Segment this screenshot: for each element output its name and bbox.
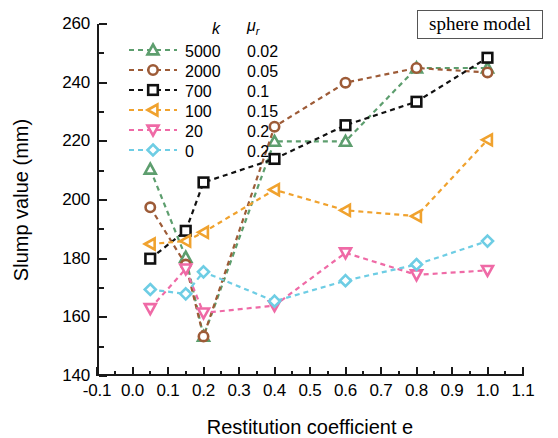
data-point-marker [482, 236, 493, 247]
data-point-marker [483, 68, 492, 77]
data-point-marker [145, 239, 155, 250]
legend-mu-value: 0.2 [247, 122, 278, 142]
x-tick-label: 0.9 [440, 381, 463, 401]
data-point-marker [145, 284, 156, 295]
x-tick-label: 1.0 [476, 381, 499, 401]
legend-symbol [127, 102, 179, 122]
y-tick-label: 180 [62, 249, 90, 269]
legend-header-mu-subscript: r [256, 25, 260, 37]
legend-k-value: 2000 [179, 62, 247, 82]
legend-k-value: 0 [179, 142, 247, 162]
legend-symbol [127, 82, 179, 102]
data-point-marker [198, 227, 208, 238]
legend-mu-value: 0.02 [247, 42, 278, 62]
data-point-marker [145, 164, 156, 174]
legend-header-spacer [127, 18, 179, 42]
legend-item: 1000.15 [127, 102, 278, 122]
plot-area: 140160180200220240260 -0.10.00.10.20.30.… [97, 24, 523, 376]
data-point-marker [411, 270, 422, 280]
legend-item: 50000.02 [127, 42, 278, 62]
x-axis-title: Restitution coefficient e [207, 416, 413, 438]
legend-k-value: 5000 [179, 42, 247, 62]
data-point-marker [412, 97, 422, 107]
x-tick-label: -0.1 [83, 381, 112, 401]
legend-header-k: k [179, 18, 247, 42]
legend-k-value: 100 [179, 102, 247, 122]
data-point-marker [482, 266, 493, 276]
data-point-marker [199, 332, 208, 341]
legend-symbol [127, 42, 179, 62]
x-tick-label: 0.6 [334, 381, 357, 401]
data-point-marker [341, 120, 351, 130]
x-tick-label: 1.1 [511, 381, 534, 401]
data-point-marker [180, 288, 191, 299]
y-tick-label: 200 [62, 190, 90, 210]
data-point-marker [411, 211, 421, 222]
data-point-marker [145, 254, 155, 264]
chart-figure: 140160180200220240260 -0.10.00.10.20.30.… [0, 0, 558, 438]
data-point-marker [340, 205, 350, 216]
y-tick-label: 160 [62, 307, 90, 327]
legend-symbol [127, 62, 179, 82]
legend-symbol [127, 142, 179, 162]
y-tick-label: 260 [62, 14, 90, 34]
legend-k-value: 20 [179, 122, 247, 142]
legend-item: 00.2 [127, 142, 278, 162]
data-point-marker [412, 63, 421, 72]
legend-item: 7000.1 [127, 82, 278, 102]
x-tick-label: 0.5 [298, 381, 321, 401]
data-point-marker [146, 203, 155, 212]
legend-item: 20000.05 [127, 62, 278, 82]
data-point-marker [483, 53, 493, 63]
legend-header-mu-symbol: μ [247, 17, 256, 34]
y-tick-label: 220 [62, 131, 90, 151]
legend-header-mu: μr [247, 18, 278, 42]
legend-symbol [127, 122, 179, 142]
x-tick-label: 0.1 [156, 381, 179, 401]
legend-header-row: k μr [127, 18, 278, 42]
chart-legend: k μr 50000.0220000.057000.11000.15200.20… [127, 18, 278, 162]
data-point-marker [411, 259, 422, 270]
legend-table: k μr 50000.0220000.057000.11000.15200.20… [127, 18, 278, 162]
data-point-marker [340, 275, 351, 286]
y-tick-label: 240 [62, 73, 90, 93]
legend-k-value: 700 [179, 82, 247, 102]
x-tick-label: 0.3 [227, 381, 250, 401]
series-line [150, 253, 487, 313]
data-point-marker [341, 78, 350, 87]
x-tick-label: 0.0 [121, 381, 144, 401]
x-tick-label: 0.7 [369, 381, 392, 401]
data-point-marker [181, 226, 191, 236]
legend-mu-value: 0.15 [247, 102, 278, 122]
x-tick-label: 0.8 [405, 381, 428, 401]
x-tick-label: 0.2 [192, 381, 215, 401]
data-point-marker [269, 184, 279, 195]
data-point-marker [145, 304, 156, 314]
series-4 [145, 248, 493, 318]
data-point-marker [199, 178, 209, 188]
sphere-model-annotation: sphere model [417, 10, 543, 39]
legend-item: 200.2 [127, 122, 278, 142]
legend-mu-value: 0.05 [247, 62, 278, 82]
legend-mu-value: 0.1 [247, 82, 278, 102]
legend-mu-value: 0.2 [247, 142, 278, 162]
y-axis-title: Slump value (mm) [10, 119, 33, 281]
x-tick-label: 0.4 [263, 381, 286, 401]
